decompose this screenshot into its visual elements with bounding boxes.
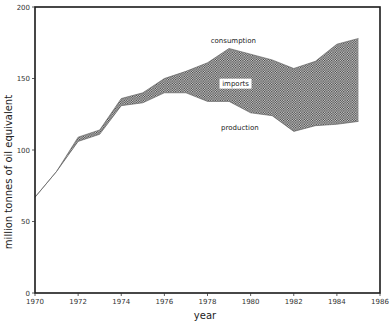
y-tick-label: 100 — [17, 147, 30, 155]
y-tick-label: 0 — [26, 290, 30, 298]
plot-frame — [35, 7, 380, 293]
x-tick-label: 1972 — [69, 298, 87, 306]
x-tick-label: 1978 — [199, 298, 217, 306]
production-label: production — [221, 124, 259, 132]
y-tick-label: 150 — [17, 75, 30, 83]
x-axis: 197019721974197619781980198219841986 — [26, 293, 389, 306]
x-tick-label: 1976 — [155, 298, 173, 306]
x-tick-label: 1984 — [328, 298, 346, 306]
y-axis-title: million tonnes of oil equivalent — [3, 95, 14, 249]
x-tick-label: 1970 — [26, 298, 44, 306]
imports-label: imports — [222, 80, 249, 88]
imports-area — [35, 38, 358, 197]
imports-shaded-area — [35, 38, 358, 197]
energy-chart: 197019721974197619781980198219841986 050… — [0, 0, 391, 327]
x-axis-title: year — [194, 310, 217, 321]
y-tick-label: 50 — [21, 218, 30, 226]
x-tick-label: 1982 — [285, 298, 303, 306]
x-tick-label: 1974 — [112, 298, 130, 306]
x-tick-label: 1980 — [242, 298, 260, 306]
y-tick-label: 200 — [17, 4, 30, 12]
x-tick-label: 1986 — [371, 298, 389, 306]
y-axis: 050100150200 — [17, 4, 35, 298]
consumption-label: consumption — [211, 37, 256, 45]
